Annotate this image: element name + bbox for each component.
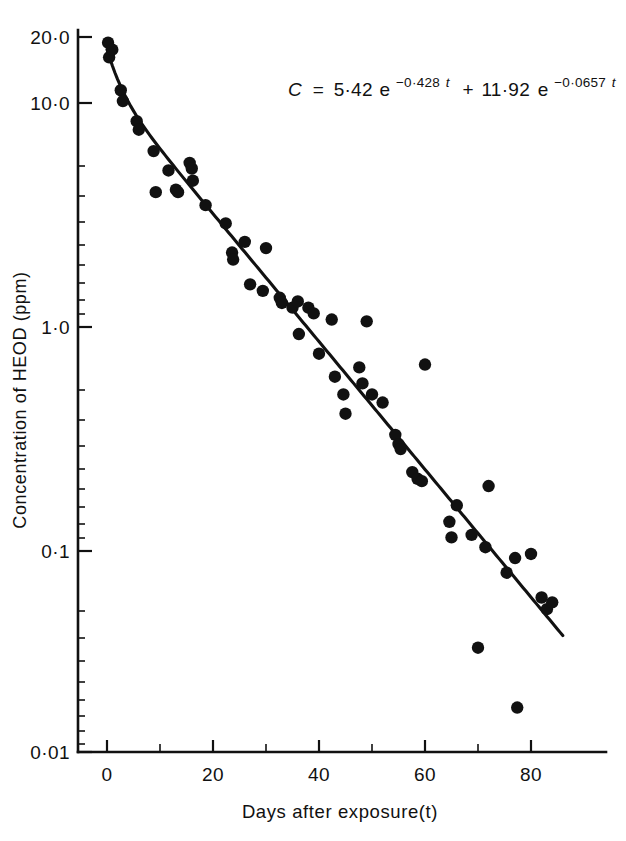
fit-equation-annotation: C = 5·42 e −0·428 t + 11·92 e −0·0657 t <box>288 70 617 100</box>
y-tick-label-1: 1·0 <box>41 317 70 338</box>
data-point <box>276 297 288 309</box>
x-axis-ticks <box>107 740 531 752</box>
y-axis-label: Concentration of HEOD (ppm) <box>10 271 30 528</box>
data-point <box>326 313 338 325</box>
data-point <box>546 596 558 608</box>
x-tick-label-60: 60 <box>414 764 436 785</box>
x-axis-tick-labels: 0 20 40 60 80 <box>102 764 542 785</box>
data-point <box>147 145 159 157</box>
data-point <box>443 516 455 528</box>
figure-container: 20·0 10·0 1·0 0·1 0·01 0 20 40 60 80 <box>0 0 626 841</box>
data-point <box>162 164 174 176</box>
equation-exponent-1-var: t <box>446 75 451 90</box>
data-point <box>361 315 373 327</box>
data-point <box>133 124 145 136</box>
y-axis-tick-labels: 20·0 10·0 1·0 0·1 0·01 <box>30 27 70 763</box>
data-point <box>479 541 491 553</box>
data-point <box>511 701 523 713</box>
data-point <box>394 443 406 455</box>
equation-equals: = <box>313 79 324 100</box>
y-tick-label-0p1: 0·1 <box>41 541 70 562</box>
equation-exponent-2: −0·0657 <box>554 75 606 90</box>
x-tick-label-20: 20 <box>202 764 224 785</box>
data-point <box>150 186 162 198</box>
x-tick-label-80: 80 <box>520 764 542 785</box>
data-point <box>482 480 494 492</box>
data-point <box>376 396 388 408</box>
data-points-layer <box>102 36 559 713</box>
data-point <box>186 162 198 174</box>
data-point <box>172 186 184 198</box>
data-point <box>500 567 512 579</box>
data-point <box>353 361 365 373</box>
equation-base-2: e <box>538 79 549 100</box>
data-point <box>535 591 547 603</box>
scatter-plot-svg: 20·0 10·0 1·0 0·1 0·01 0 20 40 60 80 <box>0 0 626 841</box>
data-point <box>244 278 256 290</box>
data-point <box>465 529 477 541</box>
equation-amplitude-2: 11·92 <box>481 79 530 100</box>
data-point <box>356 377 368 389</box>
y-tick-label-20: 20·0 <box>30 27 70 48</box>
data-point <box>292 295 304 307</box>
data-point <box>227 253 239 265</box>
data-point <box>220 217 232 229</box>
data-point <box>445 531 457 543</box>
equation-plus: + <box>462 79 473 100</box>
data-point <box>337 388 349 400</box>
data-point <box>525 548 537 560</box>
data-point <box>239 236 251 248</box>
y-tick-label-10: 10·0 <box>30 93 70 114</box>
data-point <box>419 358 431 370</box>
data-point <box>366 388 378 400</box>
data-point <box>339 408 351 420</box>
data-point <box>308 307 320 319</box>
data-point <box>416 475 428 487</box>
y-axis-major-ticks <box>78 37 92 752</box>
data-point <box>257 285 269 297</box>
fitted-curve <box>107 49 563 635</box>
equation-lhs: C <box>288 79 302 100</box>
y-tick-label-0p01: 0·01 <box>30 742 70 763</box>
data-point <box>509 552 521 564</box>
equation-amplitude-1: 5·42 <box>334 79 373 100</box>
data-point <box>329 370 341 382</box>
data-point <box>313 348 325 360</box>
equation-exponent-1: −0·428 <box>396 75 440 90</box>
x-axis-label: Days after exposure(t) <box>242 801 438 822</box>
equation-base-1: e <box>379 79 390 100</box>
data-point <box>106 43 118 55</box>
data-point <box>451 499 463 511</box>
data-point <box>199 199 211 211</box>
data-point <box>187 174 199 186</box>
data-point <box>117 95 129 107</box>
data-point <box>293 328 305 340</box>
data-point <box>115 84 127 96</box>
x-tick-label-0: 0 <box>102 764 113 785</box>
data-point <box>472 642 484 654</box>
x-tick-label-40: 40 <box>308 764 330 785</box>
data-point <box>260 242 272 254</box>
equation-exponent-2-var: t <box>612 75 617 90</box>
